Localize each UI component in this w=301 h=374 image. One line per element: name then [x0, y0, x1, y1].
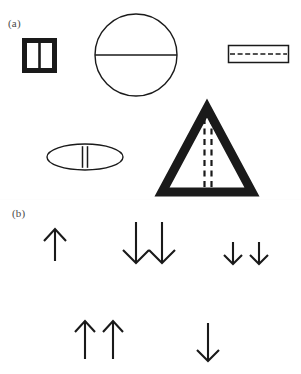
ellipse-outline: [47, 144, 123, 170]
arrow-group-3: [220, 236, 276, 274]
arrow-group-5-svg: [190, 316, 230, 368]
arrow-down-5: [197, 323, 219, 361]
triangle-dashed-svg: [155, 98, 261, 198]
arrow-group-2-svg: [120, 215, 182, 273]
arrow-up-1: [44, 229, 66, 261]
arrow-down-3a: [224, 242, 242, 264]
arrow-group-1-svg: [36, 222, 76, 270]
shape-rectangle-dashed: [224, 41, 294, 67]
arrow-group-4: [70, 314, 130, 368]
arrow-group-3-svg: [220, 236, 276, 274]
circle-divided-svg: [92, 11, 182, 101]
rectangle-dashed-svg: [224, 41, 294, 67]
shape-triangle-dashed: [155, 98, 261, 198]
ellipse-double-line-svg: [43, 140, 127, 174]
arrow-down-3b: [250, 242, 268, 264]
triangle-outline: [162, 108, 252, 192]
arrow-up-4a: [75, 321, 95, 359]
shape-ellipse-double-line: [43, 140, 127, 174]
arrow-group-1: [36, 222, 76, 270]
arrow-up-4b: [103, 321, 123, 359]
figure-canvas: (a) (b): [0, 0, 301, 374]
shape-square-divided: [14, 30, 60, 76]
panel-label-a: (a): [8, 17, 21, 29]
panel-label-b: (b): [12, 207, 25, 219]
arrow-group-2: [120, 215, 182, 273]
panel-divider: [0, 199, 301, 200]
arrow-down-2a: [123, 222, 149, 263]
arrow-down-2b: [149, 222, 175, 263]
square-divided-svg: [14, 30, 60, 76]
arrow-group-4-svg: [70, 314, 130, 368]
arrow-group-5: [190, 316, 230, 368]
shape-circle-divided: [92, 11, 182, 101]
